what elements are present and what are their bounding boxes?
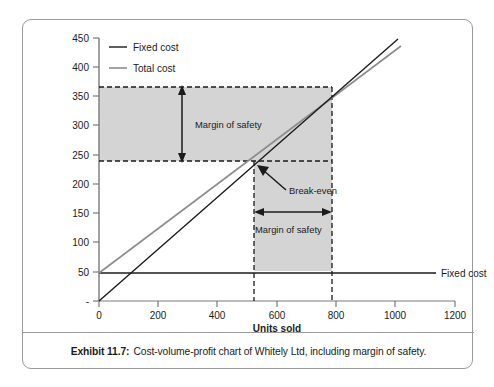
y-tick-label: 100	[72, 237, 89, 248]
chart-legend: Fixed cost Total cost	[109, 42, 179, 74]
x-tick-label: 0	[96, 310, 102, 321]
series-label-fixed-cost: Fixed cost	[441, 268, 487, 279]
y-tick-label: 450	[72, 33, 89, 44]
y-tick-label: 50	[78, 267, 90, 278]
annotation-label-margin-of-safety-horizontal: Margin of safety	[255, 224, 322, 235]
y-tick-label: -	[86, 296, 89, 307]
figure-caption: Exhibit 11.7: Cost-volume-profit chart o…	[23, 333, 474, 369]
y-tick-label: 200	[72, 179, 89, 190]
x-axis-ticks	[99, 301, 455, 307]
x-tick-label: 200	[150, 310, 167, 321]
legend-label-total-cost: Total cost	[133, 63, 175, 74]
caption-text: Cost-volume-profit chart of Whitely Ltd,…	[133, 346, 426, 357]
y-axis-ticks	[93, 38, 99, 301]
legend-label-fixed-cost: Fixed cost	[133, 42, 179, 53]
y-tick-label: 150	[72, 208, 89, 219]
y-tick-label: 250	[72, 150, 89, 161]
x-tick-label: 400	[209, 310, 226, 321]
chart-area: 450 400 350 300 250 200 150 100 50 - 0 2…	[23, 20, 474, 332]
y-tick-label: 300	[72, 120, 89, 131]
y-tick-label: 400	[72, 62, 89, 73]
x-tick-label: 800	[328, 310, 345, 321]
series-line-sales-revenue	[99, 39, 398, 301]
cost-volume-profit-chart: 450 400 350 300 250 200 150 100 50 - 0 2…	[23, 20, 474, 332]
x-tick-label: 600	[269, 310, 286, 321]
figure-frame: 450 400 350 300 250 200 150 100 50 - 0 2…	[22, 19, 473, 369]
x-tick-label: 1200	[444, 310, 467, 321]
annotation-label-break-even: Break-even	[289, 185, 337, 196]
lower-margin-of-safety-box	[254, 161, 332, 271]
caption-exhibit-label: Exhibit 11.7:	[71, 346, 130, 357]
y-tick-label: 350	[72, 91, 89, 102]
annotation-label-margin-of-safety-vertical: Margin of safety	[195, 119, 262, 130]
x-tick-label: 1000	[384, 310, 407, 321]
